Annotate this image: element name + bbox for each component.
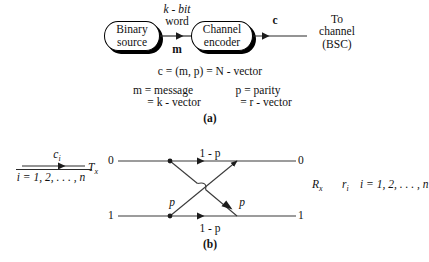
figure-line-overlay: [0, 0, 429, 262]
bsc-node-input-0: [168, 159, 173, 164]
figure-container: Binary source Channel encoder k - bit wo…: [0, 0, 429, 262]
channel-input-arrow: [16, 162, 92, 169]
encoder-to-channel-arrow: [253, 32, 307, 40]
bsc-edge-0-to-1-upper: [170, 161, 198, 184]
source-to-encoder-arrow: [160, 32, 191, 40]
bsc-edge-crossing-hop: [198, 183, 206, 189]
bsc-transition-diagram: [118, 158, 296, 220]
bsc-node-input-1: [168, 214, 173, 219]
bsc-edge-0-to-1-lower: [206, 190, 238, 217]
